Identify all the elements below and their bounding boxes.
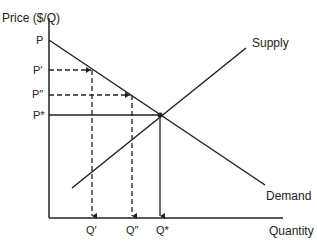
tick-p-prime: P′ <box>33 65 42 76</box>
tick-p: P <box>36 35 43 46</box>
tick-q-prime: Q′ <box>86 225 97 236</box>
x-axis-label: Quantity <box>269 225 314 237</box>
y-axis-label: Price ($/Q) <box>2 12 60 24</box>
tick-q-double-prime: Q″ <box>126 225 138 236</box>
tick-p-double-prime: P″ <box>32 89 43 100</box>
supply-label: Supply <box>252 37 289 49</box>
supply-curve <box>72 48 246 188</box>
tick-q-star: Q* <box>156 225 169 236</box>
equilibrium-point <box>158 113 163 118</box>
demand-label: Demand <box>266 190 311 202</box>
tick-p-star: P* <box>33 110 45 121</box>
demand-curve <box>49 40 265 185</box>
